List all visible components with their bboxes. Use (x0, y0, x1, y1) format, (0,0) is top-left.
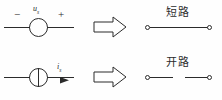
short-circuit-label: 短路 (166, 7, 189, 18)
implies-arrow-bottom (93, 66, 127, 92)
implies-arrow-top (93, 16, 127, 42)
voltage-source-row: − + us 短路 (0, 0, 222, 50)
open-circuit-wire-right (185, 77, 208, 78)
open-circuit-wire-left (150, 77, 173, 78)
current-source-bar (38, 68, 39, 87)
open-circuit-terminal-right (207, 75, 212, 80)
voltage-variable-label: us (33, 5, 39, 16)
current-direction-arrow (60, 72, 72, 90)
plus-sign: + (58, 9, 64, 20)
current-variable-label: is (57, 63, 61, 74)
minus-sign: − (14, 9, 20, 20)
current-source-left-lead (4, 77, 30, 78)
voltage-variable-subscript: s (37, 9, 39, 15)
voltage-source-right-lead (47, 27, 74, 28)
voltage-source-left-lead (4, 27, 30, 28)
current-source-row: is 开路 (0, 50, 222, 100)
voltage-source-circle (29, 18, 48, 37)
short-circuit-terminal-right (207, 25, 212, 30)
current-variable-subscript: s (59, 67, 61, 73)
open-circuit-label: 开路 (166, 57, 189, 68)
circuit-equivalence-figure: − + us 短路 (0, 0, 222, 100)
short-circuit-wire (150, 27, 208, 28)
